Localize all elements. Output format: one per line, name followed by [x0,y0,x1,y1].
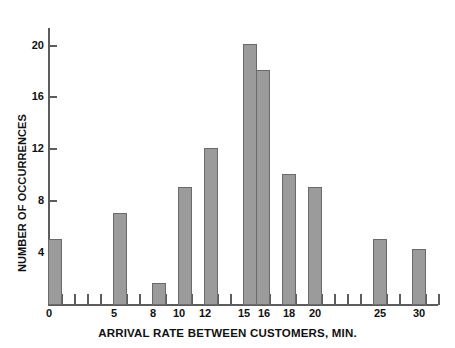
x-tick-label-5: 5 [104,308,124,319]
x-tick-label-8: 8 [143,308,163,319]
x-tick-label-15: 15 [234,308,254,319]
bar-15 [243,44,257,305]
y-tick-mark-8 [50,200,57,202]
y-tick-mark-20 [50,45,57,47]
bar-16 [256,70,270,305]
y-tick-mark-16 [50,96,57,98]
x-tick-mark-27 [399,294,401,305]
x-tick-mark-24 [360,294,362,305]
x-tick-label-12: 12 [195,308,215,319]
x-tick-mark-14 [230,294,232,305]
x-tick-label-18: 18 [279,308,299,319]
x-tick-mark-7 [139,294,141,305]
bar-10 [178,187,192,305]
x-tick-mark-4 [100,294,102,305]
bar-25 [373,239,387,305]
x-tick-label-25: 25 [370,308,390,319]
x-tick-label-0: 0 [39,308,59,319]
x-tick-label-20: 20 [305,308,325,319]
bar-20 [308,187,322,305]
x-tick-mark-22 [334,294,336,305]
bar-18 [282,174,296,305]
x-tick-label-16: 16 [254,308,274,319]
bar-30 [412,249,426,305]
bar-12 [204,148,218,305]
bar-8 [152,283,166,305]
x-tick-label-30: 30 [409,308,429,319]
y-tick-label-20: 20 [22,40,44,51]
y-axis-title: NUMBER OF OCCURRENCES [16,114,28,272]
y-tick-label-16: 16 [22,91,44,102]
y-tick-mark-12 [50,148,57,150]
x-tick-mark-2 [74,294,76,305]
x-tick-mark-3 [87,294,89,305]
bar-5 [113,213,127,305]
x-tick-mark-23 [347,294,349,305]
x-axis-title: ARRIVAL RATE BETWEEN CUSTOMERS, MIN. [0,327,455,339]
x-tick-mark-30 [438,294,440,305]
x-tick-label-10: 10 [169,308,189,319]
histogram-chart: 20 16 12 8 4 NUMBER OF OCCURRENCES 0 5 8 [0,0,455,348]
bar-0 [48,239,62,305]
